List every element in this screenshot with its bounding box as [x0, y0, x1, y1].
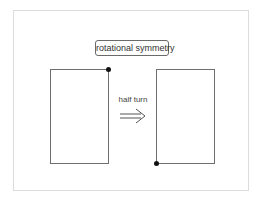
original-rectangle: [50, 69, 109, 164]
diagram-title: rotational symmetry: [95, 40, 169, 56]
transformation-label: half turn: [118, 95, 148, 104]
double-arrow-right-icon: [119, 108, 147, 124]
corner-marker-top-right: [106, 67, 111, 72]
rotated-rectangle: [156, 69, 215, 164]
corner-marker-bottom-left: [154, 161, 159, 166]
